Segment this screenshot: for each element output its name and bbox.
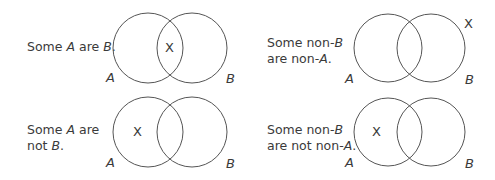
circle-label-b: B [465,156,474,171]
x-marker: X [464,16,473,31]
circle-label-b: B [226,71,235,86]
venn-diagrams-canvas: A B X A B X A B X A B X [0,0,495,180]
x-marker: X [165,40,174,55]
x-marker: X [372,124,381,139]
circle-label-a: A [344,155,354,170]
circle-b [157,97,227,167]
circle-a [113,97,183,167]
circle-a [354,98,422,166]
circle-label-b: B [465,72,474,87]
circle-label-b: B [226,156,235,171]
x-marker: X [133,124,142,139]
circle-label-a: A [105,155,115,170]
circle-label-a: A [105,70,115,85]
circle-b [397,98,465,166]
circle-a [354,14,422,82]
circle-b [397,14,465,82]
circle-label-a: A [344,71,354,86]
